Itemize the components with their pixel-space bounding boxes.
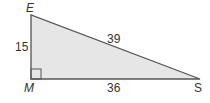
triangle-diagram: E M S 15 36 39 bbox=[0, 0, 210, 103]
side-label-es: 39 bbox=[107, 32, 121, 46]
vertex-label-s: S bbox=[194, 81, 202, 95]
side-label-ms: 36 bbox=[107, 81, 121, 95]
triangle-ems bbox=[31, 15, 200, 79]
side-label-em: 15 bbox=[15, 40, 29, 54]
vertex-label-e: E bbox=[26, 1, 35, 15]
vertex-label-m: M bbox=[24, 81, 34, 95]
